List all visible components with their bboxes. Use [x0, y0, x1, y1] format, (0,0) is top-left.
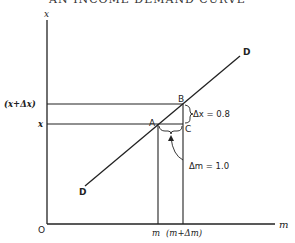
y-tick-x: x	[37, 119, 44, 129]
delta-x-brace	[185, 105, 193, 123]
point-a-label: A	[149, 118, 156, 128]
income-demand-diagram: x m O (x+Δx) x m (m+Δm) A B C Δx = 0.8 Δ…	[0, 0, 295, 243]
arrow-head-icon	[168, 135, 174, 141]
y-axis-label: x	[44, 9, 49, 19]
delta-x-annotation: Δx = 0.8	[193, 109, 230, 119]
curve-label-bottom: D	[79, 187, 86, 197]
point-b-label: B	[178, 94, 184, 104]
delta-m-annotation: Δm = 1.0	[189, 161, 229, 171]
y-tick-x-plus-dx: (x+Δx)	[4, 99, 36, 109]
curve-label-top: D	[243, 47, 250, 57]
delta-m-arrow	[171, 138, 183, 160]
x-tick-m: m	[152, 228, 160, 238]
point-c-label: C	[185, 124, 191, 134]
origin-label: O	[38, 225, 45, 235]
x-axis-label: m	[279, 219, 288, 230]
delta-m-brace	[159, 126, 182, 134]
x-tick-m-plus-dm: (m+Δm)	[166, 228, 202, 238]
